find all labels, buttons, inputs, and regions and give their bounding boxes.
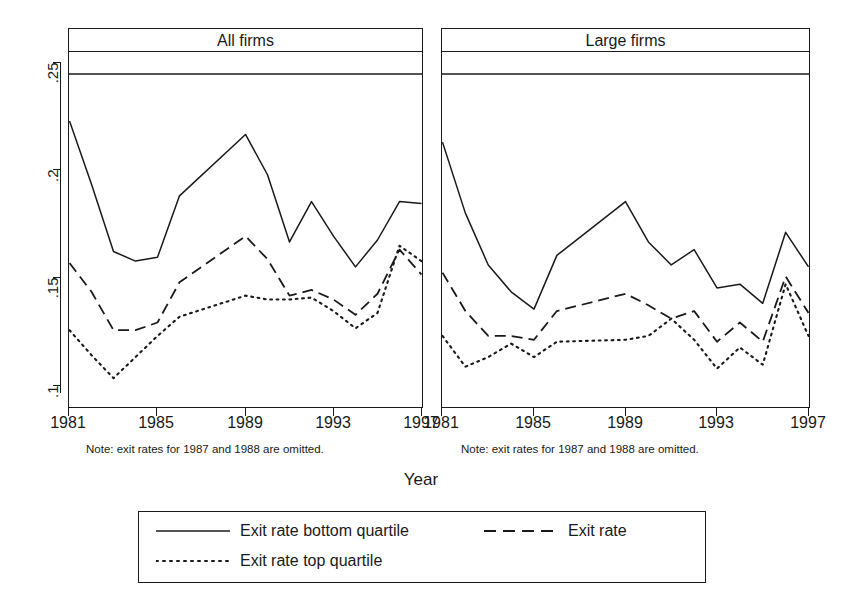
y-tick-20 (53, 169, 61, 170)
series-lines-all-firms (69, 52, 422, 407)
y-axis-line (60, 62, 61, 393)
note-large-firms: Note: exit rates for 1987 and 1988 are o… (461, 443, 699, 455)
xtick-label-1985-left: 1985 (121, 414, 191, 432)
panel-title-all-firms: All firms (68, 28, 423, 52)
xtick-label-1993-left: 1993 (298, 414, 368, 432)
panel-title-large-firms: Large firms (441, 28, 810, 52)
legend-label-bottom-quartile: Exit rate bottom quartile (240, 522, 409, 540)
y-tick-10 (53, 385, 61, 386)
legend-label-top-quartile: Exit rate top quartile (240, 552, 382, 570)
series-dotted (70, 246, 422, 378)
legend-entry-bottom-quartile: Exit rate bottom quartile (156, 522, 409, 540)
series-dashed (443, 273, 809, 342)
plot-area-all-firms (68, 51, 423, 408)
y-tick-25 (53, 62, 61, 63)
xtick-label-1985-right: 1985 (498, 414, 568, 432)
series-lines-large-firms (442, 52, 809, 407)
note-all-firms: Note: exit rates for 1987 and 1988 are o… (86, 443, 324, 455)
legend-entry-top-quartile: Exit rate top quartile (156, 552, 382, 570)
xtick-label-1989-left: 1989 (210, 414, 280, 432)
xtick-label-1981-right: 1981 (406, 414, 476, 432)
xtick-label-1981-left: 1981 (33, 414, 103, 432)
ytick-label-1: .2 (44, 170, 61, 204)
series-solid (70, 121, 422, 267)
figure-canvas: All firms Large firms .25 .2 .15 .1 1981… (0, 0, 842, 605)
plot-area-large-firms (441, 51, 810, 408)
ytick-label-2: .15 (44, 278, 61, 312)
xtick-label-1993-right: 1993 (681, 414, 751, 432)
legend-label-exit-rate: Exit rate (568, 522, 627, 540)
legend-key-dashed-icon (484, 524, 558, 538)
xtick-label-1997-right: 1997 (773, 414, 842, 432)
ytick-label-0: .25 (44, 63, 61, 97)
legend-entry-exit-rate: Exit rate (484, 522, 627, 540)
legend-key-dotted-icon (156, 554, 230, 568)
x-axis-title: Year (0, 470, 842, 490)
series-dotted (443, 284, 809, 368)
y-tick-15 (53, 277, 61, 278)
series-solid (443, 142, 809, 309)
xtick-label-1989-right: 1989 (590, 414, 660, 432)
legend-key-solid-icon (156, 524, 230, 538)
